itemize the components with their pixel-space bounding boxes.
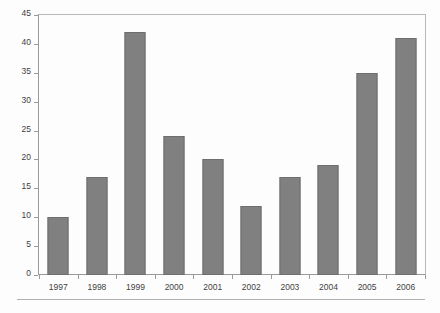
x-axis-tick-mark (386, 275, 387, 279)
bar-slot (155, 15, 194, 275)
y-axis-tick-mark (34, 44, 38, 45)
y-axis-tick-label: 5 (26, 240, 31, 249)
y-axis: 051015202530354045 (0, 14, 38, 276)
x-axis-tick-mark (155, 275, 156, 279)
bar[interactable] (357, 73, 378, 275)
x-axis-tick-mark (116, 275, 117, 279)
y-axis-tick-mark (34, 275, 38, 276)
bar-slot (39, 15, 78, 275)
bar-slot (386, 15, 425, 275)
x-axis-label-2002: 2002 (232, 282, 271, 292)
bottom-divider (17, 299, 425, 300)
bar-series (39, 15, 425, 275)
x-axis-tick-mark (425, 275, 426, 279)
x-axis-tick-mark (309, 275, 310, 279)
x-axis-tick-mark (39, 275, 40, 279)
bar-slot (232, 15, 271, 275)
y-axis-tick-label: 20 (22, 153, 31, 162)
x-axis: 1997199819992000200120022003200420052006 (39, 275, 425, 297)
bar[interactable] (164, 136, 185, 275)
bar-slot (348, 15, 387, 275)
x-axis-label-2005: 2005 (348, 282, 387, 292)
x-axis-label-2006: 2006 (386, 282, 425, 292)
bar[interactable] (241, 206, 262, 275)
y-axis-tick-mark (34, 102, 38, 103)
bar[interactable] (395, 38, 416, 275)
bar[interactable] (86, 177, 107, 275)
y-axis-tick-mark (34, 159, 38, 160)
bar-slot (78, 15, 117, 275)
y-axis-tick-label: 30 (22, 96, 31, 105)
x-axis-label-2000: 2000 (155, 282, 194, 292)
bar-slot (309, 15, 348, 275)
x-axis-tick-mark (271, 275, 272, 279)
y-axis-tick-mark (34, 73, 38, 74)
bar[interactable] (125, 32, 146, 275)
x-axis-tick-mark (78, 275, 79, 279)
x-axis-label-1998: 1998 (78, 282, 117, 292)
y-axis-tick-mark (34, 217, 38, 218)
y-axis-tick-mark (34, 15, 38, 16)
bar[interactable] (48, 217, 69, 275)
bar-slot (271, 15, 310, 275)
y-axis-tick-label: 45 (22, 9, 31, 18)
y-axis-tick-mark (34, 188, 38, 189)
y-axis-tick-mark (34, 131, 38, 132)
bar[interactable] (318, 165, 339, 275)
bar[interactable] (279, 177, 300, 275)
x-axis-label-1999: 1999 (116, 282, 155, 292)
y-axis-tick-label: 10 (22, 211, 31, 220)
x-axis-tick-mark (348, 275, 349, 279)
x-axis-label-2004: 2004 (309, 282, 348, 292)
x-axis-label-2001: 2001 (193, 282, 232, 292)
y-axis-tick-label: 35 (22, 67, 31, 76)
x-axis-tick-mark (232, 275, 233, 279)
y-axis-tick-label: 15 (22, 182, 31, 191)
y-axis-tick-label: 25 (22, 125, 31, 134)
x-axis-tick-mark (193, 275, 194, 279)
bar-slot (193, 15, 232, 275)
y-axis-tick-label: 0 (26, 269, 31, 278)
bar-chart-figure: 051015202530354045 199719981999200020012… (0, 0, 440, 313)
y-axis-tick-label: 40 (22, 38, 31, 47)
x-axis-label-1997: 1997 (39, 282, 78, 292)
bar[interactable] (202, 159, 223, 275)
bar-slot (116, 15, 155, 275)
x-axis-label-2003: 2003 (271, 282, 310, 292)
y-axis-tick-mark (34, 246, 38, 247)
